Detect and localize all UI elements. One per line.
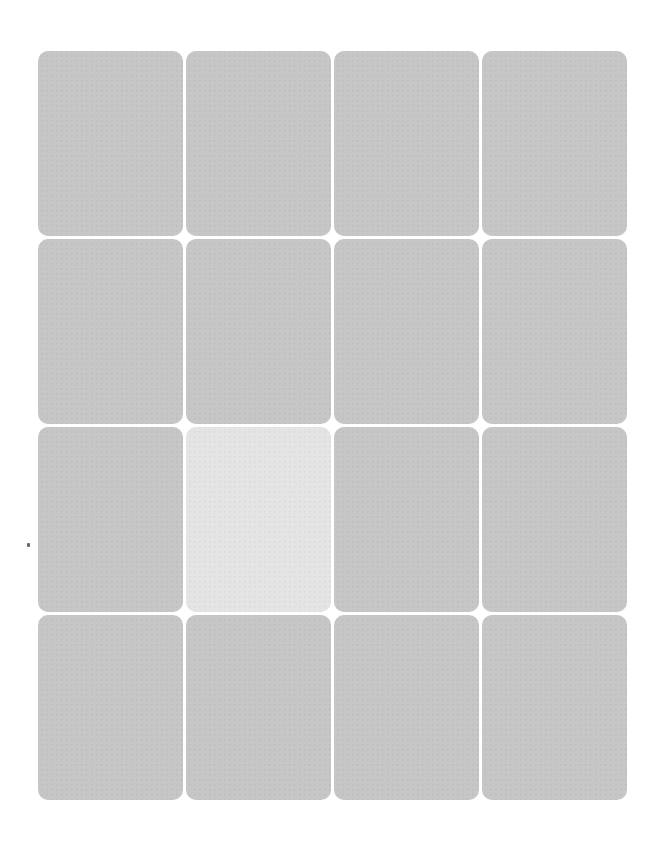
card-r1-c3[interactable] bbox=[334, 51, 479, 236]
card-r4-c3[interactable] bbox=[334, 615, 479, 800]
card-grid bbox=[38, 51, 626, 802]
card-r2-c3[interactable] bbox=[334, 239, 479, 424]
card-r3-c3[interactable] bbox=[334, 427, 479, 612]
card-r3-c2[interactable] bbox=[186, 427, 331, 612]
card-r2-c4[interactable] bbox=[482, 239, 627, 424]
scan-speck bbox=[27, 543, 30, 547]
card-r2-c2[interactable] bbox=[186, 239, 331, 424]
card-r1-c1[interactable] bbox=[38, 51, 183, 236]
card-r3-c4[interactable] bbox=[482, 427, 627, 612]
card-r4-c2[interactable] bbox=[186, 615, 331, 800]
card-r1-c2[interactable] bbox=[186, 51, 331, 236]
card-r4-c4[interactable] bbox=[482, 615, 627, 800]
card-r3-c1[interactable] bbox=[38, 427, 183, 612]
card-r1-c4[interactable] bbox=[482, 51, 627, 236]
card-r4-c1[interactable] bbox=[38, 615, 183, 800]
card-r2-c1[interactable] bbox=[38, 239, 183, 424]
